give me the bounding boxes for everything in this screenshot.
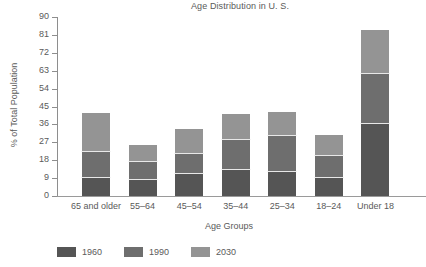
bar-5 [267,111,297,196]
y-tick-label: 45 [39,101,49,111]
bar-segment-1960 [128,180,158,196]
bar-segment-1990 [221,140,251,170]
y-tick-mark [52,35,57,36]
bar-3 [174,128,204,196]
bar-segment-2030 [221,113,251,140]
y-tick-mark [52,160,57,161]
bar-1 [81,112,111,197]
bar-segment-1960 [267,172,297,196]
legend-label-2030: 2030 [216,247,236,257]
bar-segment-1990 [314,156,344,178]
bar-segment-2030 [128,144,158,162]
legend-item-1960: 1960 [57,247,102,257]
bar-segment-2030 [81,112,111,153]
y-tick-label: 90 [39,11,49,21]
y-tick-label: 72 [39,47,49,57]
bar-7 [360,29,390,196]
bar-segment-1960 [314,178,344,196]
bar-segment-1990 [81,152,111,178]
legend-swatch-1990 [124,247,143,257]
bar-2 [128,144,158,196]
y-axis-line [57,17,58,197]
y-tick-mark [52,17,57,18]
y-tick-label: 27 [39,136,49,146]
plot-area: 09182736455463728190 [57,17,401,196]
age-distribution-chart: Age Distribution in U. S. % of Total Pop… [0,0,426,267]
x-axis-line [57,196,426,197]
legend-swatch-1960 [57,247,76,257]
y-tick-mark [52,71,57,72]
bar-segment-1960 [360,124,390,196]
legend-item-1990: 1990 [124,247,169,257]
bar-segment-2030 [267,111,297,136]
bar-segment-1960 [221,170,251,196]
legend-label-1960: 1960 [82,247,102,257]
y-tick-mark [52,89,57,90]
x-axis-label-7: Under 18 [335,201,415,211]
bar-segment-1960 [174,174,204,196]
legend-label-1990: 1990 [149,247,169,257]
bar-segment-1990 [174,154,204,174]
y-tick-mark [52,124,57,125]
y-tick-mark [52,142,57,143]
y-axis-title: % of Total Population [9,40,19,170]
bar-segment-1990 [128,162,158,180]
bar-segment-1990 [267,136,297,172]
y-tick-label: 63 [39,65,49,75]
y-tick-label: 9 [44,172,49,182]
bar-segment-1960 [81,178,111,196]
bar-4 [221,113,251,196]
y-tick-label: 81 [39,29,49,39]
bar-segment-2030 [314,134,344,156]
bar-segment-2030 [174,128,204,154]
legend-swatch-2030 [191,247,210,257]
chart-title: Age Distribution in U. S. [130,1,350,11]
bar-segment-2030 [360,29,390,74]
y-tick-mark [52,178,57,179]
legend-item-2030: 2030 [191,247,236,257]
y-tick-label: 0 [44,190,49,200]
y-tick-mark [52,107,57,108]
chart-legend: 196019902030 [57,245,258,259]
y-tick-label: 18 [39,154,49,164]
y-tick-mark [52,196,57,197]
y-tick-mark [52,53,57,54]
y-tick-label: 54 [39,83,49,93]
bar-segment-1990 [360,74,390,125]
bar-6 [314,134,344,196]
x-axis-title: Age Groups [57,221,401,231]
y-tick-label: 36 [39,118,49,128]
